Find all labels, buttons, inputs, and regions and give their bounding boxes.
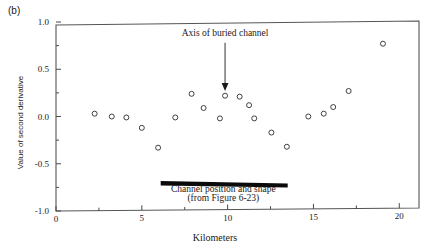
y-tick-label: 1.0: [38, 17, 50, 27]
data-point-marker: [331, 105, 336, 110]
data-point-marker: [109, 114, 114, 119]
annotation-axis-label: Axis of buried channel: [182, 28, 269, 38]
y-tick-label: 0.0: [38, 112, 50, 122]
data-point-marker: [173, 115, 178, 120]
y-tick-label: 0.5: [38, 64, 50, 74]
data-point-marker: [346, 88, 351, 93]
annotation-arrow-head: [222, 83, 229, 91]
data-point-marker: [284, 144, 289, 149]
y-tick-label: -0.5: [35, 159, 50, 169]
data-point-marker: [252, 116, 257, 121]
data-point-marker: [201, 106, 206, 111]
data-point-marker: [306, 114, 311, 119]
data-point-marker: [321, 111, 326, 116]
data-point-marker: [124, 115, 129, 120]
data-point-marker: [247, 103, 252, 108]
scatter-plot: -1.0-0.50.00.51.0 05101520 Axis of burie…: [0, 0, 430, 249]
data-point-marker: [217, 116, 222, 121]
data-point-marker: [380, 41, 385, 46]
x-tick-label: 5: [140, 213, 145, 223]
x-tick-label: 20: [395, 211, 405, 221]
annotation-layer: Axis of buried channelChannel position a…: [161, 28, 288, 204]
data-point-marker: [223, 93, 228, 98]
data-point-marker: [237, 94, 242, 99]
channel-caption-line2: (from Figure 6-23): [187, 193, 259, 204]
x-tick-label: 15: [309, 212, 319, 222]
y-axis-ticks: -1.0-0.50.00.51.0: [35, 17, 61, 216]
data-point-marker: [269, 130, 274, 135]
data-point-marker: [139, 125, 144, 130]
x-tick-label: 10: [223, 213, 233, 223]
y-tick-label: -1.0: [35, 206, 50, 216]
data-point-group: [92, 41, 385, 150]
x-axis-ticks: 05101520: [54, 203, 405, 224]
figure-panel-b: (b) Value of second derivative Kilometer…: [0, 0, 430, 249]
data-point-marker: [156, 145, 161, 150]
data-point-marker: [92, 111, 97, 116]
x-tick-label: 0: [54, 214, 59, 224]
data-point-marker: [189, 91, 194, 96]
